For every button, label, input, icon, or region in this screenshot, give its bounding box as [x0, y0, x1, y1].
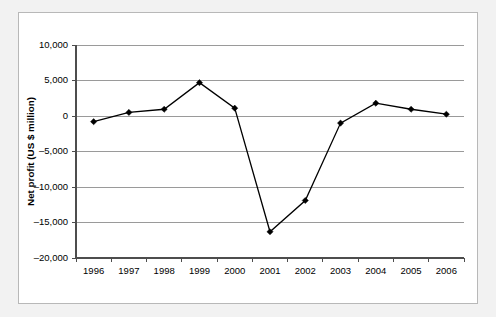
- chart-figure: 10,0005,0000–5,000–10,000–15,000–20,000 …: [0, 0, 496, 317]
- x-tick-labels-group: 1996199719981999200020012002200320042005…: [83, 265, 457, 276]
- gridlines-group: [76, 45, 464, 223]
- x-tick-label: 2003: [330, 265, 351, 276]
- data-point-marker: [126, 109, 132, 115]
- data-point-marker: [373, 100, 379, 106]
- data-point-marker: [408, 106, 414, 112]
- data-point-marker: [91, 119, 97, 125]
- x-tick-label: 2006: [436, 265, 457, 276]
- x-tick-label: 1997: [118, 265, 139, 276]
- y-tick-label: –20,000: [34, 252, 68, 263]
- x-tick-label: 1999: [189, 265, 210, 276]
- y-tick-label: 5,000: [44, 74, 68, 85]
- y-tick-labels-group: 10,0005,0000–5,000–10,000–15,000–20,000: [34, 39, 68, 263]
- data-point-marker: [337, 120, 343, 126]
- y-tick-label: 10,000: [39, 39, 68, 50]
- x-tick-marks-group: [76, 258, 464, 262]
- y-tick-label: –10,000: [34, 181, 68, 192]
- y-tick-label: –15,000: [34, 216, 68, 227]
- x-tick-label: 1998: [154, 265, 175, 276]
- y-tick-marks-group: [72, 45, 76, 258]
- x-tick-label: 2001: [259, 265, 280, 276]
- x-tick-label: 2004: [365, 265, 386, 276]
- net-profit-line: [94, 83, 447, 232]
- y-tick-label: 0: [63, 110, 68, 121]
- x-tick-label: 1996: [83, 265, 104, 276]
- net-profit-markers-group: [91, 80, 450, 235]
- x-tick-label: 2002: [295, 265, 316, 276]
- x-tick-label: 2000: [224, 265, 245, 276]
- y-tick-label: –5,000: [39, 145, 68, 156]
- y-axis-title: Net profit (US $ million): [25, 97, 36, 206]
- x-tick-label: 2005: [401, 265, 422, 276]
- line-chart-plot: 10,0005,0000–5,000–10,000–15,000–20,000 …: [18, 12, 478, 304]
